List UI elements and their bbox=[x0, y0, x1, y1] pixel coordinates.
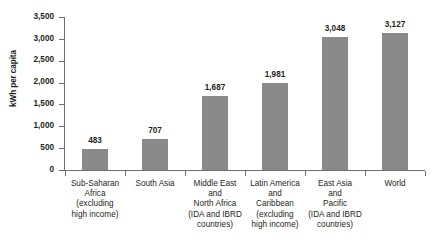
bar bbox=[382, 33, 408, 170]
x-axis-category-label: Latin AmericaandCaribbean(excludinghigh … bbox=[245, 179, 305, 230]
x-axis-tick-mark bbox=[125, 171, 126, 176]
bar-value-label: 1,981 bbox=[245, 71, 305, 79]
y-axis-tick-label: 2,500 bbox=[8, 56, 54, 64]
y-axis-tick-label: 3,000 bbox=[8, 35, 54, 43]
x-axis-category-label: East AsiaandPacific(IDA and IBRDcountrie… bbox=[305, 179, 365, 230]
x-axis-category-label-line: South Asia bbox=[125, 179, 185, 189]
y-axis-tick-label: 2,000 bbox=[8, 78, 54, 86]
x-axis-category-label-line: Pacific bbox=[305, 199, 365, 209]
y-axis-tick-label: 500 bbox=[8, 144, 54, 152]
plot-area bbox=[65, 17, 425, 170]
x-axis-tick-mark bbox=[65, 171, 66, 176]
x-axis-category-label-line: high income) bbox=[245, 220, 305, 230]
x-axis-category-label-line: World bbox=[365, 179, 425, 189]
y-axis-tick-label: 0 bbox=[8, 166, 54, 174]
x-axis-category-label-line: countries) bbox=[185, 220, 245, 230]
x-axis-category-label-line: and bbox=[245, 189, 305, 199]
bar-value-label: 3,048 bbox=[305, 25, 365, 33]
bar bbox=[142, 139, 168, 170]
x-axis-category-label-line: Latin America bbox=[245, 179, 305, 189]
bar bbox=[322, 37, 348, 170]
bar bbox=[202, 96, 228, 170]
x-axis-tick-mark bbox=[365, 171, 366, 176]
x-axis-category-label-line: East Asia bbox=[305, 179, 365, 189]
x-axis-category-label-line: Caribbean bbox=[245, 199, 305, 209]
bar-value-label: 707 bbox=[125, 127, 185, 135]
x-axis-category-label-line: North Africa bbox=[185, 199, 245, 209]
x-axis-category-label-line: countries) bbox=[305, 220, 365, 230]
x-axis-tick-mark bbox=[305, 171, 306, 176]
x-axis-category-label-line: and bbox=[185, 189, 245, 199]
y-axis-tick-label: 1,000 bbox=[8, 122, 54, 130]
x-axis-category-label-line: (IDA and IBRD bbox=[305, 210, 365, 220]
x-axis-category-label-line: Sub-Saharan bbox=[65, 179, 125, 189]
x-axis-tick-mark bbox=[185, 171, 186, 176]
x-axis-category-label-line: Middle East bbox=[185, 179, 245, 189]
x-axis-category-label: Sub-SaharanAfrica(excludinghigh income) bbox=[65, 179, 125, 220]
bar-value-label: 483 bbox=[65, 137, 125, 145]
bar-chart-figure: kWh per capita 3,5003,0002,5002,0001,500… bbox=[0, 0, 432, 240]
bar-value-label: 1,687 bbox=[185, 84, 245, 92]
x-axis-category-label: Middle EastandNorth Africa(IDA and IBRDc… bbox=[185, 179, 245, 230]
x-axis-category-label-line: Africa bbox=[65, 189, 125, 199]
bar bbox=[262, 83, 288, 170]
bar bbox=[82, 149, 108, 170]
x-axis-category-label-line: high income) bbox=[65, 210, 125, 220]
x-axis-tick-mark bbox=[425, 171, 426, 176]
bar-value-label: 3,127 bbox=[365, 21, 425, 29]
y-axis-tick-label: 1,500 bbox=[8, 100, 54, 108]
x-axis-category-label: World bbox=[365, 179, 425, 189]
x-axis-category-label-line: and bbox=[305, 189, 365, 199]
x-axis-tick-mark bbox=[245, 171, 246, 176]
y-axis-tick-label: 3,500 bbox=[8, 13, 54, 21]
x-axis-category-label-line: (excluding bbox=[245, 210, 305, 220]
x-axis-category-label-line: (excluding bbox=[65, 199, 125, 209]
x-axis-category-label: South Asia bbox=[125, 179, 185, 189]
x-axis-category-label-line: (IDA and IBRD bbox=[185, 210, 245, 220]
